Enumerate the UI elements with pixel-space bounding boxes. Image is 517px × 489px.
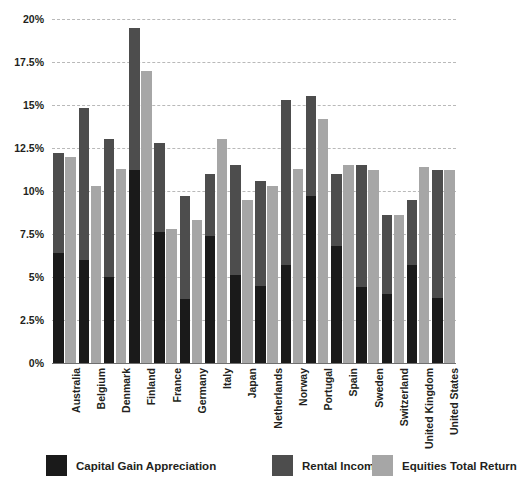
plot-area: 20%17.5%15%12.5%10%7.5%5%2.5%0% bbox=[52, 19, 456, 363]
bar-group bbox=[255, 19, 278, 363]
bar-equities-total-return bbox=[116, 169, 127, 363]
legend-swatch-icon bbox=[372, 455, 393, 476]
y-axis-tick-label: 5% bbox=[0, 271, 44, 283]
x-axis-tick-label: Spain bbox=[347, 368, 359, 397]
bar-group bbox=[129, 19, 152, 363]
bar-equities-total-return bbox=[65, 157, 76, 363]
legend-label: Equities Total Return bbox=[402, 460, 517, 472]
bar-capital-gain-appreciation bbox=[205, 236, 216, 363]
bar-group bbox=[230, 19, 253, 363]
y-axis-tick-label: 10% bbox=[0, 185, 44, 197]
bar-capital-gain-appreciation bbox=[230, 275, 241, 363]
bar-capital-gain-appreciation bbox=[407, 265, 418, 363]
bar-group bbox=[180, 19, 203, 363]
bar-group bbox=[306, 19, 329, 363]
legend-item: Equities Total Return bbox=[372, 455, 517, 476]
y-axis-tick-label: 0% bbox=[0, 357, 44, 369]
x-axis-tick-label: Japan bbox=[246, 368, 258, 398]
legend-label: Rental Income bbox=[302, 460, 381, 472]
bar-capital-gain-appreciation bbox=[180, 299, 191, 363]
x-axis-tick-label: Australia bbox=[70, 368, 82, 413]
bar-group bbox=[407, 19, 430, 363]
legend-item: Rental Income bbox=[272, 455, 381, 476]
bar-equities-total-return bbox=[166, 229, 177, 363]
x-axis-tick-label: Denmark bbox=[120, 368, 132, 413]
bar-equities-total-return bbox=[192, 220, 203, 363]
bar-equities-total-return bbox=[419, 167, 430, 363]
x-axis-tick-label: Italy bbox=[221, 368, 233, 389]
legend-label: Capital Gain Appreciation bbox=[76, 460, 216, 472]
bar-capital-gain-appreciation bbox=[154, 232, 165, 363]
bar-equities-total-return bbox=[394, 215, 405, 363]
bar-capital-gain-appreciation bbox=[281, 265, 292, 363]
bar-equities-total-return bbox=[242, 200, 253, 363]
bar-equities-total-return bbox=[318, 119, 329, 363]
bar-capital-gain-appreciation bbox=[306, 196, 317, 363]
bar-groups bbox=[52, 19, 456, 363]
bar-equities-total-return bbox=[217, 139, 228, 363]
bar-equities-total-return bbox=[91, 186, 102, 363]
bar-group bbox=[382, 19, 405, 363]
bar-capital-gain-appreciation bbox=[79, 260, 90, 363]
bar-equities-total-return bbox=[343, 165, 354, 363]
x-axis-tick-label: Germany bbox=[196, 368, 208, 414]
bar-equities-total-return bbox=[368, 170, 379, 363]
chart-legend: Capital Gain AppreciationRental IncomeEq… bbox=[0, 455, 464, 489]
x-axis-tick-label: Belgium bbox=[95, 368, 107, 409]
bar-group bbox=[53, 19, 76, 363]
bar-capital-gain-appreciation bbox=[432, 298, 443, 363]
x-axis-tick-label: Sweden bbox=[373, 368, 385, 408]
x-axis-tick-label: Netherlands bbox=[272, 368, 284, 429]
y-axis-tick-label: 17.5% bbox=[0, 56, 44, 68]
bar-group bbox=[154, 19, 177, 363]
bar-equities-total-return bbox=[141, 71, 152, 363]
bar-group bbox=[356, 19, 379, 363]
legend-swatch-icon bbox=[272, 455, 293, 476]
y-axis-tick-label: 20% bbox=[0, 13, 44, 25]
legend-item: Capital Gain Appreciation bbox=[46, 455, 216, 476]
bar-equities-total-return bbox=[293, 169, 304, 363]
bar-group bbox=[432, 19, 455, 363]
bar-capital-gain-appreciation bbox=[104, 277, 115, 363]
y-axis-tick-label: 7.5% bbox=[0, 228, 44, 240]
bar-capital-gain-appreciation bbox=[356, 287, 367, 363]
bar-capital-gain-appreciation bbox=[255, 286, 266, 363]
bar-equities-total-return bbox=[267, 186, 278, 363]
x-axis-tick-label: United Kingdom bbox=[423, 368, 435, 449]
bar-group bbox=[104, 19, 127, 363]
bar-capital-gain-appreciation bbox=[53, 253, 64, 363]
x-axis-tick-label: Portugal bbox=[322, 368, 334, 411]
bar-group bbox=[79, 19, 102, 363]
bar-capital-gain-appreciation bbox=[331, 246, 342, 363]
bar-equities-total-return bbox=[444, 170, 455, 363]
x-axis-labels: AustraliaBelgiumDenmarkFinlandFranceGerm… bbox=[52, 368, 456, 454]
y-axis-tick-label: 15% bbox=[0, 99, 44, 111]
x-axis-tick-label: United States bbox=[448, 368, 460, 435]
x-axis-tick-label: Switzerland bbox=[398, 368, 410, 426]
bar-group bbox=[331, 19, 354, 363]
y-axis-tick-label: 12.5% bbox=[0, 142, 44, 154]
y-axis-tick-label: 2.5% bbox=[0, 314, 44, 326]
bar-group bbox=[205, 19, 228, 363]
gridline-0 bbox=[52, 363, 456, 364]
legend-swatch-icon bbox=[46, 455, 67, 476]
bar-capital-gain-appreciation bbox=[382, 294, 393, 363]
bar-capital-gain-appreciation bbox=[129, 170, 140, 363]
x-axis-tick-label: France bbox=[171, 368, 183, 402]
x-axis-tick-label: Norway bbox=[297, 368, 309, 406]
bar-group bbox=[281, 19, 304, 363]
x-axis-tick-label: Finland bbox=[145, 368, 157, 405]
